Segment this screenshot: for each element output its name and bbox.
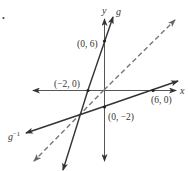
point-neg2-0 — [86, 89, 89, 92]
g-label: g — [116, 6, 121, 17]
point-0-neg2 — [103, 105, 106, 108]
label-0-neg2: (0, −2) — [108, 112, 134, 123]
label-neg2-0: (−2, 0) — [54, 79, 80, 90]
label-6-0: (6, 0) — [151, 95, 172, 106]
label-0-6: (0, 6) — [77, 39, 98, 50]
point-6-0 — [151, 89, 154, 92]
g-inverse-label: g−1 — [8, 130, 20, 142]
point-0-6 — [103, 39, 106, 42]
y-axis-label: y — [101, 5, 107, 16]
g-inverse-line — [26, 81, 178, 133]
function-inverse-graph: x y g g−1 (0, 6) (−2, 0) (0, −2) (6, 0) — [0, 0, 188, 171]
x-axis-label: x — [179, 85, 185, 96]
